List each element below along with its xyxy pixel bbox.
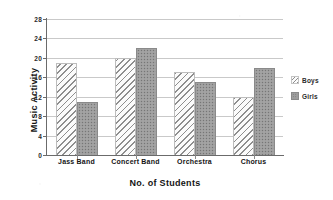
bar-boys (56, 63, 77, 155)
bar-group: Concert Band (106, 19, 165, 155)
y-tick-label: 28 (34, 16, 42, 23)
bar-girls (195, 82, 216, 155)
legend-item-boys[interactable]: Boys (291, 76, 319, 84)
plot-area: 0481216202428 Jass BandConcert BandOrche… (47, 19, 283, 155)
legend-item-girls[interactable]: Girls (291, 92, 319, 100)
bar-group: Jass Band (47, 19, 106, 155)
gridline: 0 (47, 155, 283, 156)
chart-legend: BoysGirls (291, 76, 319, 100)
bar-boys (174, 72, 195, 155)
bar-group: Chorus (224, 19, 283, 155)
y-tick-label: 8 (38, 113, 42, 120)
x-tick-label: Chorus (241, 158, 267, 165)
bar-chart: Music Activity 0481216202428 Jass BandCo… (0, 0, 333, 200)
y-tick-label: 20 (34, 54, 42, 61)
y-tick-label: 4 (38, 132, 42, 139)
x-tick-label: Jass Band (58, 158, 95, 165)
legend-swatch-icon (291, 92, 299, 100)
y-tick-label: 16 (34, 74, 42, 81)
x-axis-title: No. of Students (47, 178, 283, 188)
bar-boys (233, 97, 254, 155)
y-tick-label: 12 (34, 93, 42, 100)
bar-girls (77, 102, 98, 155)
bar-boys (115, 58, 136, 155)
x-tick-label: Concert Band (111, 158, 159, 165)
legend-label: Girls (302, 93, 318, 100)
bar-girls (254, 68, 275, 155)
y-tick-label: 0 (38, 152, 42, 159)
y-tick-mark (43, 155, 47, 156)
bar-group: Orchestra (165, 19, 224, 155)
y-tick-label: 24 (34, 35, 42, 42)
bar-groups: Jass BandConcert BandOrchestraChorus (47, 19, 283, 155)
x-tick-label: Orchestra (177, 158, 212, 165)
legend-label: Boys (302, 77, 319, 84)
legend-swatch-icon (291, 76, 299, 84)
bar-girls (136, 48, 157, 155)
